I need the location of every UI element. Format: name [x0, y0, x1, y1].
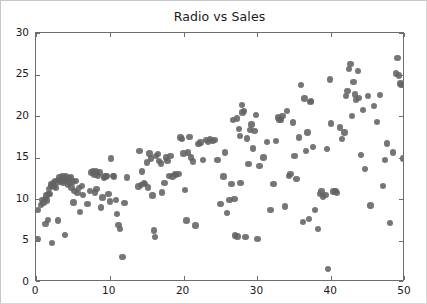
scatter-point — [236, 126, 242, 132]
scatter-point — [49, 240, 55, 246]
y-tick-mark — [399, 241, 403, 242]
x-tick-mark — [331, 276, 332, 280]
scatter-point — [190, 158, 196, 164]
scatter-point — [254, 236, 260, 242]
scatter-point — [114, 211, 120, 217]
figure-inner: Radio vs Sales 051015202530 01020304050 — [1, 1, 426, 303]
scatter-point — [315, 226, 321, 232]
scatter-point — [234, 233, 240, 239]
scatter-point — [175, 171, 181, 177]
scatter-point — [264, 139, 270, 145]
scatter-point — [390, 149, 396, 155]
x-tick-mark — [257, 276, 258, 280]
scatter-point — [322, 192, 328, 198]
scatter-point — [398, 82, 403, 88]
scatter-point — [182, 187, 188, 193]
scatter-point — [270, 181, 276, 187]
scatter-point — [105, 191, 111, 197]
scatter-point — [367, 202, 373, 208]
scatter-point — [234, 115, 240, 121]
x-tick-label: 20 — [168, 285, 198, 296]
scatter-point — [119, 254, 125, 260]
x-tick-mark — [36, 276, 37, 280]
chart-title: Radio vs Sales — [35, 9, 404, 24]
scatter-point — [374, 119, 380, 125]
scatter-point — [327, 76, 333, 82]
plot-axes-area — [35, 32, 404, 281]
y-tick-label: 10 — [5, 193, 29, 204]
scatter-point — [324, 146, 330, 152]
scatter-point — [231, 196, 237, 202]
scatter-point — [145, 184, 151, 190]
scatter-point — [260, 154, 266, 160]
scatter-point — [111, 173, 117, 179]
scatter-point — [384, 140, 390, 146]
scatter-point — [371, 103, 377, 109]
scatter-point — [93, 186, 99, 192]
y-tick-mark — [399, 116, 403, 117]
scatter-point — [344, 88, 350, 94]
scatter-point — [241, 108, 247, 114]
scatter-point — [200, 157, 206, 163]
scatter-point — [296, 134, 302, 140]
scatter-point — [220, 173, 226, 179]
scatter-point — [167, 153, 173, 159]
y-tick-mark — [36, 75, 40, 76]
scatter-point — [159, 189, 165, 195]
x-tick-mark — [404, 276, 405, 280]
y-tick-mark — [399, 75, 403, 76]
scatter-point — [121, 200, 127, 206]
scatter-point — [224, 210, 230, 216]
y-tick-mark — [399, 33, 403, 34]
scatter-point — [151, 227, 157, 233]
scatter-point — [350, 79, 356, 85]
scatter-point — [70, 199, 76, 205]
x-tick-mark — [110, 33, 111, 37]
scatter-point — [80, 192, 86, 198]
x-tick-mark — [404, 33, 405, 37]
scatter-point — [303, 148, 309, 154]
scatter-point — [325, 266, 331, 272]
scatter-point — [355, 68, 361, 74]
scatter-point — [217, 201, 223, 207]
scatter-point — [380, 183, 386, 189]
figure-canvas: Radio vs Sales 051015202530 01020304050 — [0, 0, 427, 304]
scatter-point — [113, 197, 119, 203]
y-tick-label: 0 — [5, 276, 29, 287]
scatter-point — [306, 216, 312, 222]
scatter-point — [98, 204, 104, 210]
scatter-point — [237, 180, 243, 186]
scatter-point — [334, 190, 340, 196]
scatter-point — [291, 153, 297, 159]
x-tick-mark — [184, 276, 185, 280]
scatter-point — [158, 160, 164, 166]
y-tick-mark — [399, 158, 403, 159]
scatter-point — [387, 220, 393, 226]
x-tick-label: 0 — [20, 285, 50, 296]
scatter-point — [339, 136, 345, 142]
scatter-point — [242, 234, 248, 240]
x-tick-mark — [257, 33, 258, 37]
scatter-point — [365, 93, 371, 99]
scatter-point — [192, 222, 198, 228]
x-tick-mark — [184, 33, 185, 37]
scatter-point — [139, 168, 145, 174]
scatter-point — [312, 207, 318, 213]
scatter-point — [152, 234, 158, 240]
scatter-point — [293, 176, 299, 182]
scatter-point — [394, 55, 400, 61]
scatter-point — [214, 157, 220, 163]
y-tick-mark — [36, 281, 40, 282]
scatter-point — [55, 217, 61, 223]
scatter-points-layer — [36, 33, 403, 280]
scatter-point — [245, 161, 251, 167]
scatter-point — [328, 120, 334, 126]
y-tick-mark — [36, 158, 40, 159]
scatter-point — [124, 174, 130, 180]
y-tick-mark — [36, 199, 40, 200]
scatter-point — [155, 151, 161, 157]
scatter-point — [356, 95, 362, 101]
scatter-point — [84, 201, 90, 207]
y-tick-label: 15 — [5, 151, 29, 162]
scatter-point — [284, 108, 290, 114]
